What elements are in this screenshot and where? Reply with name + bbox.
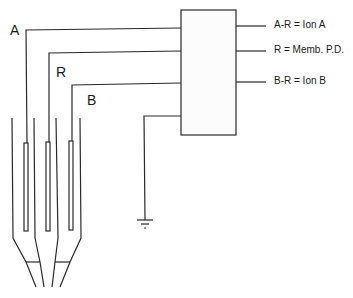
electrode-assembly [12, 118, 81, 287]
output-label-ion-a: A-R = Ion A [274, 20, 325, 30]
output-label-memb-pd: R = Memb. P.D. [274, 45, 344, 55]
electrode-label-b: B [87, 93, 96, 107]
ground-icon [137, 220, 153, 228]
electrode-label-r: R [56, 65, 66, 79]
amplifier-box [181, 10, 236, 135]
output-label-ion-b: B-R = Ion B [274, 76, 326, 86]
ground-wire [144, 116, 181, 220]
electrode-label-a: A [10, 23, 19, 37]
wire-r [49, 51, 181, 143]
